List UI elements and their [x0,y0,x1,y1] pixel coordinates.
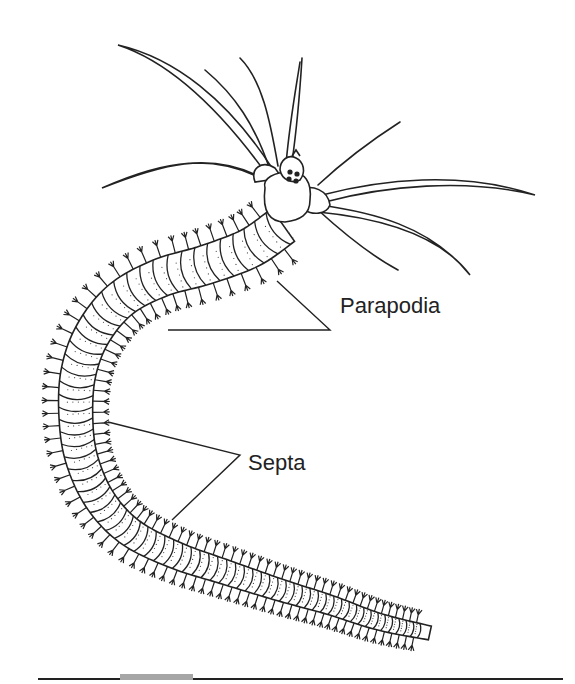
page-rule [38,678,563,680]
parapodium [130,500,143,513]
parapodium [207,582,214,597]
parapodium [284,249,297,265]
parapodium [265,559,272,574]
parapodium [50,463,66,470]
parapodium [97,447,113,454]
parapodium [257,556,264,571]
parapodium [298,570,305,584]
parapodium [185,291,192,309]
parapodium [290,567,297,581]
parapodium [108,542,120,556]
parapodium [225,587,232,602]
page-tab-marker [120,674,193,680]
parapodium [271,259,283,276]
parapodium [149,563,158,578]
parapodium [386,633,392,647]
parapodium [216,584,223,599]
parapodium [168,235,175,253]
parapodium [140,559,149,574]
parapodium [374,597,381,611]
parapodium [42,397,59,403]
parapodium [408,637,414,651]
parapodium [80,517,94,529]
parapodium [259,598,266,613]
parapodium [309,611,316,625]
parapodium [173,294,181,311]
parapodium [293,607,300,621]
parapodium [213,283,221,301]
parapodium [381,600,387,614]
parapodium [94,271,107,286]
parapodium [367,595,374,609]
parapodium [274,562,281,577]
parapodium [247,201,260,217]
parapodium [193,228,201,246]
parapodium [394,635,400,649]
parapodium [93,420,110,426]
parapodium [56,324,72,334]
parapodium [277,602,284,616]
parapodium [124,494,137,507]
parapodium [137,246,146,263]
parapodium [101,359,118,367]
parapodium [237,209,249,226]
parapodium [227,278,235,296]
parapodium [42,383,59,389]
parapodium [124,322,138,335]
parapodium [195,534,203,549]
parapodium [229,214,239,231]
parapodium [409,607,415,621]
parapodium [46,451,62,457]
parapodium [198,579,205,594]
parapodium [82,284,96,297]
parapodium [213,540,220,555]
parapodium [104,465,120,474]
parapodium [251,595,258,610]
parapodium [63,310,79,321]
parapodium [378,632,384,646]
parapodium [354,625,361,639]
parapodium [159,567,167,582]
parapodium [198,287,205,305]
parapodium [94,430,111,436]
parapodium [169,523,178,538]
parapodium [339,620,346,634]
parapodium [256,267,266,284]
parapodium [43,424,60,430]
parapodium [282,564,289,578]
parapodium [88,526,101,539]
parapodium [100,456,116,464]
parapodium [416,609,422,623]
parapodium [285,605,292,619]
parapodium [108,473,123,483]
parapodium [395,604,401,618]
parapodium [231,546,238,561]
parapodium [206,223,214,241]
parapodium [179,573,187,588]
parapodium [150,303,160,320]
parapodium [152,514,162,529]
parapodium [50,339,67,347]
parapodium [95,380,112,386]
callout-lines [108,281,330,520]
parapodium [93,399,110,405]
septa-label: Septa [248,452,306,474]
parapodium [248,553,255,568]
parapodium [42,411,59,417]
parapodium [93,389,110,395]
parapodium [353,589,360,603]
parapodium [72,296,87,308]
parapodium [110,340,126,351]
parapodium [44,437,61,443]
parapodium [360,592,367,606]
parapodium [54,475,70,483]
parapodium [160,518,169,533]
parapodium [118,487,132,499]
parapodium [129,554,139,569]
parapodium [317,613,324,627]
worm-body [42,201,432,651]
parapodium [178,527,186,542]
parapodium [240,549,247,564]
parapodium [242,592,249,607]
parapodium [137,505,149,519]
